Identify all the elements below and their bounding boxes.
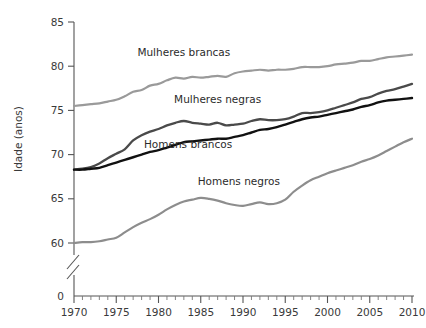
- series-label-homens-negros: Homens negros: [198, 175, 280, 187]
- x-tick-label-1990: 1990: [230, 306, 257, 318]
- x-tick-label-1980: 1980: [145, 306, 172, 318]
- series-label-mulheres-negras: Mulheres negras: [174, 93, 261, 105]
- x-tick-label-1970: 1970: [61, 306, 88, 318]
- y-tick-label-70: 70: [51, 148, 64, 160]
- series-labels-layer: Mulheres brancasMulheres negrasHomens br…: [137, 46, 279, 187]
- y-tick-label-65: 65: [51, 192, 64, 204]
- y-tick-label-75: 75: [51, 104, 64, 116]
- x-tick-label-1975: 1975: [103, 306, 130, 318]
- y-tick-label-85: 85: [51, 16, 64, 28]
- x-tick-label-2005: 2005: [356, 306, 383, 318]
- y-tick-label-0: 0: [57, 290, 64, 302]
- x-tick-label-1985: 1985: [187, 306, 214, 318]
- chart-figure: 0606570758085197019751980198519901995200…: [0, 0, 426, 328]
- line-chart-svg: 0606570758085197019751980198519901995200…: [0, 0, 426, 328]
- y-tick-label-80: 80: [51, 60, 64, 72]
- series-line-homens-negros: [74, 139, 412, 243]
- series-label-homens-brancos: Homens brancos: [144, 138, 232, 150]
- x-tick-label-2000: 2000: [314, 306, 341, 318]
- x-tick-label-1995: 1995: [272, 306, 299, 318]
- series-label-mulheres-brancas: Mulheres brancas: [137, 46, 230, 58]
- y-axis-title: Idade (anos): [12, 106, 24, 172]
- curves-layer: [74, 55, 412, 243]
- y-tick-label-60: 60: [51, 237, 64, 249]
- series-line-homens-brancos: [74, 98, 412, 170]
- x-tick-label-2010: 2010: [399, 306, 426, 318]
